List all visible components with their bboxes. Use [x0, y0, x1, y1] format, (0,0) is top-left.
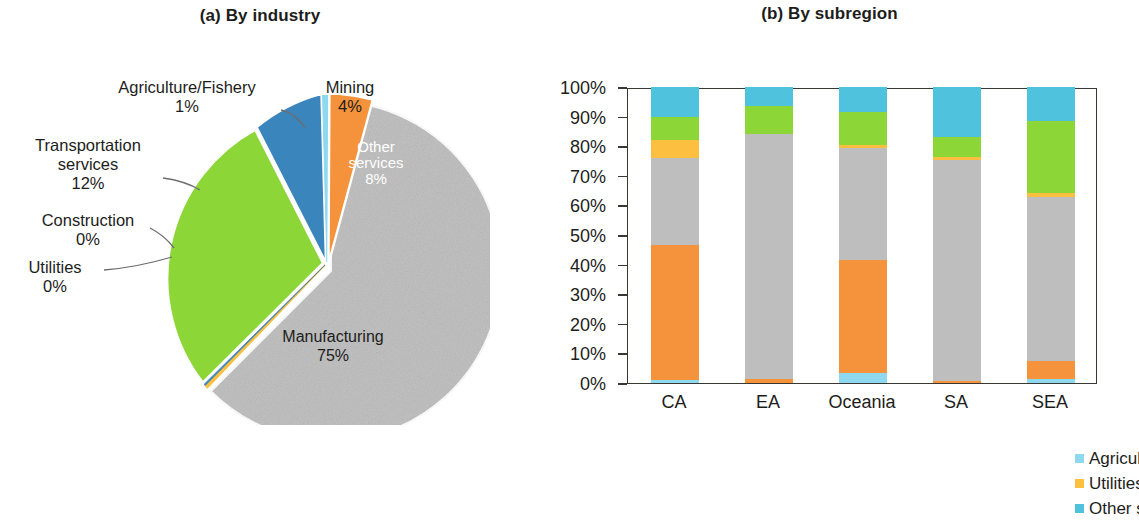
bar-y-tick-40: 40% — [532, 257, 606, 275]
pie-callout-construction: Construction 0% — [18, 211, 158, 249]
bar-segment-other-services[interactable] — [745, 87, 793, 106]
bar-chart-panel: (b) By subregion Agriculture/Fishery Min… — [520, 0, 1139, 524]
bar-y-tick-100: 100% — [532, 79, 606, 97]
bar-y-tick-mark — [618, 294, 627, 296]
pie-callout-agriculture-value: 1% — [175, 97, 199, 115]
bar-x-tick-oceania: Oceania — [817, 392, 907, 413]
pie-callout-utilities-value: 0% — [43, 277, 67, 295]
bar-segment-manufacturing[interactable] — [745, 134, 793, 378]
bar-segment-agriculture-fishery[interactable] — [651, 380, 699, 383]
pie-callout-transportation: Transportation services 12% — [14, 136, 162, 193]
bar-panel-title: (b) By subregion — [520, 4, 1139, 24]
bar-y-tick-mark — [618, 146, 627, 148]
bar-y-tick-mark — [618, 205, 627, 207]
legend-row: Agriculture/Fishery Mining Manufacturing — [1075, 446, 1139, 471]
pie-callout-mining: Mining 4% — [305, 78, 395, 116]
bar-segment-utilities[interactable] — [1027, 193, 1075, 197]
bar-y-tick-mark — [618, 87, 627, 89]
bar-plot-area — [627, 88, 1097, 384]
legend-label-agriculture-fishery: Agriculture/Fishery — [1089, 449, 1139, 468]
bar-y-tick-70: 70% — [532, 168, 606, 186]
legend-label-utilities: Utilities — [1089, 474, 1139, 493]
legend-label-other-services: Other services — [1089, 499, 1139, 518]
chart-legend: Agriculture/Fishery Mining Manufacturing… — [1075, 446, 1139, 521]
bar-segment-other-services[interactable] — [1027, 87, 1075, 121]
bar-y-tick-mark — [618, 383, 627, 385]
pie-chart-panel: (a) By industry — [0, 0, 520, 524]
legend-swatch-utilities — [1075, 479, 1084, 488]
bar-column-sa[interactable] — [933, 89, 981, 383]
bar-segment-other-services[interactable] — [933, 87, 981, 137]
legend-item-utilities: Utilities — [1075, 474, 1139, 493]
bar-y-tick-20: 20% — [532, 316, 606, 334]
bar-y-tick-mark — [618, 265, 627, 267]
legend-item-other-services: Other services — [1075, 499, 1139, 518]
bar-y-tick-mark — [618, 117, 627, 119]
bar-column-oceania[interactable] — [839, 89, 887, 383]
pie-callout-transportation-name2: services — [58, 155, 119, 173]
bar-segment-manufacturing[interactable] — [933, 160, 981, 381]
bar-segment-transportation-services[interactable] — [651, 117, 699, 141]
bar-y-tick-mark — [618, 176, 627, 178]
bar-y-tick-30: 30% — [532, 286, 606, 304]
bar-column-sea[interactable] — [1027, 89, 1075, 383]
legend-row: Other services — [1075, 496, 1139, 521]
bar-column-ca[interactable] — [651, 89, 699, 383]
bar-y-tick-80: 80% — [532, 138, 606, 156]
bar-segment-mining[interactable] — [1027, 361, 1075, 380]
bar-segment-mining[interactable] — [839, 260, 887, 372]
bar-y-tick-60: 60% — [532, 197, 606, 215]
pie-callout-transportation-name1: Transportation — [35, 136, 141, 154]
legend-item-agriculture-fishery: Agriculture/Fishery — [1075, 449, 1139, 468]
pie-callout-transportation-value: 12% — [71, 174, 104, 192]
pie-callout-mining-name: Mining — [326, 78, 375, 96]
bar-segment-utilities[interactable] — [933, 157, 981, 159]
bar-segment-transportation-services[interactable] — [745, 106, 793, 134]
bar-segment-agriculture-fishery[interactable] — [839, 373, 887, 383]
pie-callout-mining-value: 4% — [338, 97, 362, 115]
bar-y-tick-0: 0% — [532, 375, 606, 393]
bar-y-tick-90: 90% — [532, 109, 606, 127]
bar-segment-transportation-services[interactable] — [933, 137, 981, 157]
bar-segment-utilities[interactable] — [839, 145, 887, 148]
legend-row: Utilities Construction Transportation se… — [1075, 471, 1139, 496]
bar-segment-other-services[interactable] — [839, 87, 887, 112]
bar-segment-mining[interactable] — [933, 381, 981, 383]
bar-segment-mining[interactable] — [651, 245, 699, 380]
bar-x-tick-ea: EA — [723, 392, 813, 413]
bar-x-tick-sa: SA — [911, 392, 1001, 413]
bar-y-tick-mark — [618, 353, 627, 355]
legend-swatch-other-services — [1075, 504, 1084, 513]
bar-segment-manufacturing[interactable] — [1027, 197, 1075, 361]
pie-callout-utilities: Utilities 0% — [6, 258, 104, 296]
bar-x-tick-ca: CA — [629, 392, 719, 413]
legend-swatch-agriculture-fishery — [1075, 454, 1084, 463]
bar-segment-manufacturing[interactable] — [839, 148, 887, 260]
bar-y-tick-mark — [618, 324, 627, 326]
pie-callout-construction-value: 0% — [76, 230, 100, 248]
bar-y-tick-50: 50% — [532, 227, 606, 245]
bar-y-tick-mark — [618, 235, 627, 237]
pie-callout-construction-name: Construction — [42, 211, 135, 229]
bar-segment-agriculture-fishery[interactable] — [1027, 379, 1075, 383]
bar-column-ea[interactable] — [745, 89, 793, 383]
pie-callout-agriculture: Agriculture/Fishery 1% — [92, 78, 282, 116]
bar-segment-transportation-services[interactable] — [839, 112, 887, 145]
bar-segment-mining[interactable] — [745, 379, 793, 383]
bar-segment-transportation-services[interactable] — [1027, 121, 1075, 193]
bar-segment-utilities[interactable] — [651, 140, 699, 158]
bar-y-tick-10: 10% — [532, 345, 606, 363]
bar-segment-manufacturing[interactable] — [651, 158, 699, 245]
bar-x-tick-sea: SEA — [1005, 392, 1095, 413]
pie-callout-utilities-name: Utilities — [28, 258, 81, 276]
bar-segment-other-services[interactable] — [651, 87, 699, 117]
pie-callout-agriculture-name: Agriculture/Fishery — [118, 78, 256, 96]
